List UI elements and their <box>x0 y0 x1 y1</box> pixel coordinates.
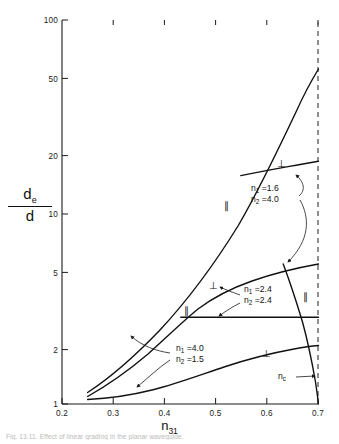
x-tick-label-0.2: 0.2 <box>56 409 68 418</box>
leader-pair3-to-perp <box>137 360 170 387</box>
y-axis-numerator: de <box>8 186 52 207</box>
annotation-pair-2: n1 =2.4 n2 =2.4 <box>244 284 272 306</box>
polarization-symbol-par-steep-rising: ∥ <box>224 200 229 212</box>
polarization-symbol-perp-upper-right: ⊥ <box>277 158 286 169</box>
figure-container: 100 50 20 10 5 2 1 0.2 0.3 0.4 0.5 0.6 0… <box>0 0 339 444</box>
annot2-line2: n2 =2.4 <box>244 295 272 306</box>
svg-text:n1 =4.0: n1 =4.0 <box>176 343 204 354</box>
annot1-line2: n2 =4.0 <box>251 194 279 205</box>
annotation-pair-1: n1 =1.6 n2 =4.0 <box>251 183 279 205</box>
svg-text:n2 =1.5: n2 =1.5 <box>176 354 204 365</box>
y-tick-label-2: 2 <box>53 346 58 355</box>
polarization-symbol-par-horizontal: ∥ <box>184 305 189 317</box>
svg-text:n1 =1.6: n1 =1.6 <box>251 183 279 194</box>
curve-n1-4.0-parallel <box>283 264 318 404</box>
annot3-line1: n1 =4.0 <box>176 343 204 354</box>
x-tick-label-0.3: 0.3 <box>107 409 119 418</box>
y-axis-denominator: d <box>8 207 52 223</box>
x-tick-label-0.6: 0.6 <box>261 409 273 418</box>
y-axis-numerator-sub: e <box>32 195 37 205</box>
figure-caption: Fig. 13.11. Effect of linear grading in … <box>6 433 333 440</box>
polarization-symbol-perp-lower: ⊥ <box>262 348 271 359</box>
y-tick-label-50: 50 <box>48 75 58 84</box>
x-tick-label-0.4: 0.4 <box>158 409 170 418</box>
annot2-line1: n1 =2.4 <box>244 284 272 295</box>
annotation-pair-3: n1 =4.0 n2 =1.5 <box>176 343 204 365</box>
leader-pair1-to-par <box>288 200 306 262</box>
leader-pair1-to-perp <box>296 175 303 196</box>
svg-text:n2 =4.0: n2 =4.0 <box>251 194 279 205</box>
svg-text:n1 =2.4: n1 =2.4 <box>244 284 272 295</box>
annot1-line1: n1 =1.6 <box>251 183 279 194</box>
polarization-symbol-par-descending: ∥ <box>303 291 308 303</box>
annotation-critical-index: nc <box>278 371 287 382</box>
y-tick-label-1: 1 <box>53 400 58 409</box>
polarization-symbol-perp-middle: ⊥ <box>209 280 218 291</box>
leader-pair2-to-par <box>219 303 240 316</box>
leader-nc-to-dashline <box>296 376 315 377</box>
nc-label: nc <box>278 371 287 382</box>
annot3-line2: n2 =1.5 <box>176 354 204 365</box>
y-axis-title: de d <box>8 186 52 223</box>
x-tick-label-0.5: 0.5 <box>210 409 222 418</box>
y-tick-label-5: 5 <box>53 269 58 278</box>
x-tick-label-0.7: 0.7 <box>312 409 324 418</box>
y-tick-label-20: 20 <box>48 152 58 161</box>
y-tick-label-100: 100 <box>44 16 59 25</box>
svg-text:n2 =2.4: n2 =2.4 <box>244 295 272 306</box>
